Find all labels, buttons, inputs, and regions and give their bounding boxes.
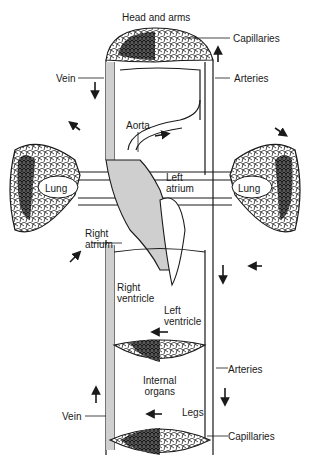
internal-organs-capillary-bed <box>114 339 205 362</box>
label-aorta: Aorta <box>126 120 150 131</box>
label-internal-organs: Internal organs <box>143 375 176 397</box>
label-vein-bottom: Vein <box>62 411 81 422</box>
label-left-atrium-line2: atrium <box>166 183 194 194</box>
label-legs: Legs <box>182 407 204 418</box>
label-right-atrium-line2: atrium <box>85 239 113 250</box>
label-right-atrium: Right atrium <box>85 228 113 250</box>
label-lung-right: Lung <box>238 183 260 194</box>
legs-capillary-bed <box>110 428 210 455</box>
label-capillaries-bottom: Capillaries <box>228 431 275 442</box>
label-left-atrium: Left atrium <box>166 172 194 194</box>
label-internal-organs-line2: organs <box>144 386 175 397</box>
label-right-ventricle: Right ventricle <box>117 282 154 304</box>
label-vein-top: Vein <box>56 73 75 84</box>
head-capillary-bed <box>106 28 213 62</box>
label-arteries-top: Arteries <box>234 73 268 84</box>
label-right-ventricle-line1: Right <box>117 282 140 293</box>
label-left-ventricle-line2: ventricle <box>164 316 201 327</box>
label-right-ventricle-line2: ventricle <box>117 293 154 304</box>
label-left-ventricle: Left ventricle <box>164 305 201 327</box>
label-capillaries-top: Capillaries <box>233 33 280 44</box>
label-lung-left: Lung <box>45 183 67 194</box>
label-internal-organs-line1: Internal <box>143 375 176 386</box>
label-left-ventricle-line1: Left <box>164 305 181 316</box>
label-head-and-arms: Head and arms <box>122 12 190 23</box>
label-left-atrium-line1: Left <box>166 172 183 183</box>
label-right-atrium-line1: Right <box>85 228 108 239</box>
label-arteries-bottom: Arteries <box>228 364 262 375</box>
